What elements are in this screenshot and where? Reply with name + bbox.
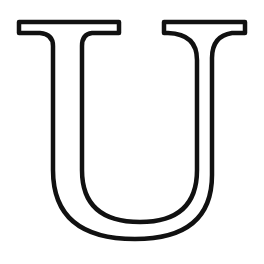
letter-canvas: U — [0, 0, 264, 264]
outlined-letter-u-icon — [0, 0, 264, 264]
letter-u-outline — [19, 22, 245, 239]
